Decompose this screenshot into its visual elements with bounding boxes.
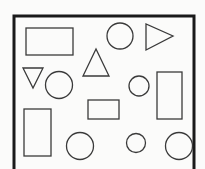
circle-bottom-left xyxy=(67,133,94,160)
rectangle-top-left xyxy=(26,28,73,55)
rectangle-vertical-right xyxy=(157,72,182,119)
triangle-up xyxy=(83,49,109,76)
circle-left-middle xyxy=(46,72,73,99)
circle-top xyxy=(107,23,133,49)
circle-small-middle xyxy=(129,76,149,96)
rectangle-center xyxy=(88,100,119,119)
triangle-right xyxy=(146,24,173,50)
rectangle-vertical-left xyxy=(24,109,51,156)
circle-small-bottom xyxy=(127,134,146,153)
circle-bottom-right xyxy=(166,133,193,160)
shapes-diagram xyxy=(0,0,205,169)
triangle-down xyxy=(23,68,43,88)
